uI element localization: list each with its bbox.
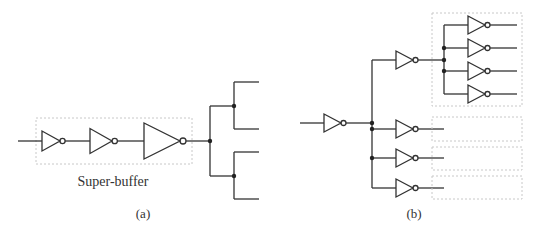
leaf-inverter-4 [444,85,517,103]
inverter-branch-2-icon [372,120,444,138]
inverter-medium-icon [90,129,117,154]
group-box-4 [432,176,522,199]
junction-dots [208,46,446,178]
leaf-inverter-1 [444,16,517,34]
fanout-tree [210,82,259,199]
inverter-branch-3-icon [372,149,444,167]
circuit-drawing [0,0,543,240]
fanout-diagram: Super-buffer (a) (b) [0,0,543,240]
leaf-inverter-2 [444,39,517,57]
caption-a: (a) [136,206,150,222]
inverter-input-icon [324,114,346,132]
inverter-branch-4-icon [372,179,444,197]
leaf-inverter-3 [444,62,517,80]
group-box-2 [432,117,522,141]
inverter-small-icon [42,131,65,151]
inverter-large-icon [144,123,186,159]
group-box-3 [432,147,522,170]
caption-b: (b) [406,206,421,222]
inverter-branch-1-icon [396,51,418,69]
panel-b-circuit [300,13,522,199]
super-buffer-label: Super-buffer [78,174,149,190]
